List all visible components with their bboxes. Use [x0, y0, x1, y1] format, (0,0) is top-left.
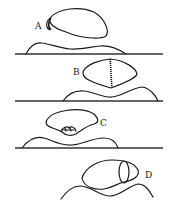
panel-d-hills — [61, 184, 153, 199]
panel-a-body — [50, 9, 108, 38]
panel-a-cap-inner — [49, 20, 51, 29]
panel-a: A — [15, 9, 163, 54]
panel-c-label: C — [100, 118, 107, 128]
panel-d-label: D — [145, 170, 152, 180]
diagram: A B C D — [0, 0, 170, 210]
panel-b: B — [15, 59, 163, 101]
panel-b-label: B — [73, 67, 80, 77]
panel-c-knot — [61, 127, 76, 131]
panel-d-ring — [119, 161, 129, 183]
panel-a-label: A — [34, 21, 42, 31]
panel-b-seam — [110, 59, 112, 88]
panel-c: C — [15, 110, 163, 148]
panel-c-hills — [22, 137, 118, 148]
panel-d-body — [82, 160, 138, 189]
panel-d: D — [61, 160, 153, 199]
panel-b-hills — [63, 87, 158, 101]
panel-c-body — [46, 110, 98, 135]
panel-a-hills — [26, 43, 126, 54]
